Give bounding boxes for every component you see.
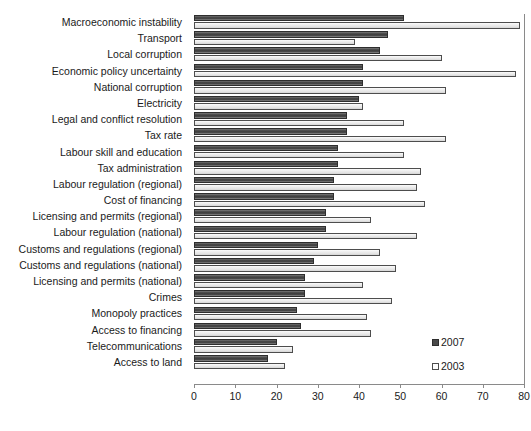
bar-2007 (194, 193, 334, 199)
bar-2007 (194, 323, 301, 329)
x-axis-tick (483, 384, 484, 388)
x-axis-tick-label: 60 (436, 390, 448, 402)
category-label: Licensing and permits (national) (0, 273, 188, 289)
x-axis-tick-labels: 01020304050607080 (194, 390, 524, 406)
bar-2003 (194, 168, 421, 174)
x-axis-tick (318, 384, 319, 388)
bar-2007 (194, 80, 363, 86)
x-axis-tick (235, 384, 236, 388)
bar-2007 (194, 209, 326, 215)
bar-row (194, 225, 524, 241)
bar-2007 (194, 177, 334, 183)
bar-2007 (194, 226, 326, 232)
bar-2007 (194, 242, 318, 248)
legend-label: 2003 (441, 360, 464, 372)
category-label: Crimes (0, 289, 188, 305)
category-label: Telecommunications (0, 338, 188, 354)
bar-2003 (194, 298, 392, 304)
bar-row (194, 14, 524, 30)
bar-2003 (194, 39, 355, 45)
bar-2007 (194, 15, 404, 21)
bar-2003 (194, 201, 425, 207)
bar-row (194, 257, 524, 273)
x-axis-tick (442, 384, 443, 388)
category-label: Local corruption (0, 46, 188, 62)
x-axis-tick-label: 0 (191, 390, 197, 402)
category-label: Economic policy uncertainty (0, 63, 188, 79)
x-axis-tick-label: 80 (518, 390, 530, 402)
bar-2007 (194, 258, 314, 264)
x-axis-tick-label: 10 (229, 390, 241, 402)
bar-row (194, 46, 524, 62)
bar-2003 (194, 71, 516, 77)
bar-2003 (194, 136, 446, 142)
category-label: Transport (0, 30, 188, 46)
category-label: Monopoly practices (0, 305, 188, 321)
bar-row (194, 241, 524, 257)
bar-2003 (194, 233, 417, 239)
category-label: Labour regulation (national) (0, 224, 188, 240)
bar-chart: Macroeconomic instabilityTransportLocal … (0, 0, 531, 431)
bar-2007 (194, 145, 338, 151)
bar-2003 (194, 314, 367, 320)
category-label: Tax administration (0, 160, 188, 176)
bar-2007 (194, 307, 297, 313)
bar-2003 (194, 152, 404, 158)
bar-2007 (194, 64, 363, 70)
x-axis-tick-label: 20 (271, 390, 283, 402)
category-label: Legal and conflict resolution (0, 111, 188, 127)
x-axis-tick (277, 384, 278, 388)
bar-2007 (194, 274, 305, 280)
bar-row (194, 208, 524, 224)
bar-row (194, 144, 524, 160)
bar-2003 (194, 363, 285, 369)
x-axis-tick-label: 40 (353, 390, 365, 402)
bar-row (194, 111, 524, 127)
legend-item: 2007 (432, 336, 502, 348)
bar-2003 (194, 265, 396, 271)
category-label: National corruption (0, 79, 188, 95)
legend-item: 2003 (432, 360, 502, 372)
category-label: Licensing and permits (regional) (0, 208, 188, 224)
bar-2007 (194, 161, 338, 167)
bar-row (194, 63, 524, 79)
bar-row (194, 160, 524, 176)
x-axis-tick-label: 30 (312, 390, 324, 402)
bar-2007 (194, 339, 277, 345)
category-label: Labour regulation (regional) (0, 176, 188, 192)
category-label: Tax rate (0, 127, 188, 143)
bar-2003 (194, 120, 404, 126)
category-label: Customs and regulations (regional) (0, 241, 188, 257)
bar-2007 (194, 47, 380, 53)
bar-2007 (194, 31, 388, 37)
bar-2003 (194, 282, 363, 288)
bar-2003 (194, 346, 293, 352)
plot-area (194, 14, 525, 385)
category-label: Access to financing (0, 322, 188, 338)
bar-row (194, 30, 524, 46)
bar-row (194, 273, 524, 289)
x-axis-tick (359, 384, 360, 388)
bar-2007 (194, 112, 347, 118)
bar-row (194, 127, 524, 143)
bar-2003 (194, 330, 371, 336)
x-axis-tick-label: 70 (477, 390, 489, 402)
bar-2003 (194, 55, 442, 61)
bar-2007 (194, 96, 359, 102)
bar-2007 (194, 290, 305, 296)
legend-swatch-2003-icon (432, 363, 439, 370)
chart-legend: 20072003 (432, 336, 502, 384)
category-label: Customs and regulations (national) (0, 257, 188, 273)
bar-2003 (194, 87, 446, 93)
bar-2003 (194, 184, 417, 190)
bar-2007 (194, 128, 347, 134)
x-axis-tick (524, 384, 525, 388)
bar-2003 (194, 249, 380, 255)
x-axis-tick (400, 384, 401, 388)
category-label-column: Macroeconomic instabilityTransportLocal … (0, 14, 188, 370)
bar-row (194, 79, 524, 95)
x-axis-tick (194, 384, 195, 388)
bar-row (194, 289, 524, 305)
category-label: Labour skill and education (0, 144, 188, 160)
bar-row (194, 176, 524, 192)
